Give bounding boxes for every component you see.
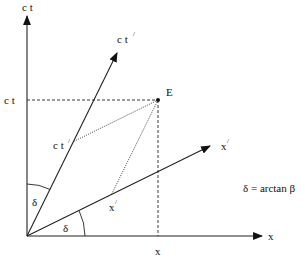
x-axis-label: x (268, 230, 274, 242)
delta-upper-label: δ (32, 196, 37, 208)
ct-prime-value-prime: / (68, 137, 70, 145)
x-value-label: x (155, 245, 161, 257)
event-label: E (166, 86, 173, 98)
x-prime-axis (27, 146, 210, 236)
event-point (156, 98, 160, 102)
angle-arc-upper (27, 184, 50, 190)
ct-axis-label: c t (22, 1, 33, 13)
delta-lower-label: δ (63, 222, 68, 234)
angle-arc-lower (79, 211, 85, 237)
x-prime-value-prime: / (115, 198, 117, 206)
spacetime-diagram: c t x c t / x / E c t x c t / x / δ δ δ … (0, 0, 305, 265)
delta-formula: δ = arctan β (243, 182, 296, 194)
ct-prime-value-label: c t (53, 139, 64, 151)
ct-value-label: c t (4, 94, 15, 106)
ct-prime-projection-dotted (73, 100, 158, 142)
x-prime-projection-dotted (112, 100, 159, 194)
ct-prime-axis-prime: / (133, 30, 135, 38)
x-prime-axis-prime: / (227, 137, 229, 145)
ct-prime-axis-label: c t (117, 33, 128, 45)
ct-prime-axis (27, 53, 117, 236)
